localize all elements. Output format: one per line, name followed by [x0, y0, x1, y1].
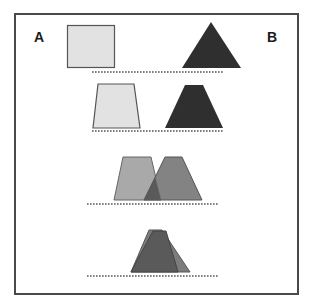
row-4 — [87, 230, 219, 276]
morph-diagram — [0, 0, 316, 306]
shape-b-trapezoid-overlap — [131, 231, 178, 272]
shape-b-triangle — [182, 22, 241, 68]
shape-a-trapezoid — [93, 84, 140, 128]
shape-b-trapezoid — [165, 85, 223, 128]
shape-a-square — [68, 26, 115, 68]
row-2 — [92, 84, 223, 131]
row-3 — [87, 157, 219, 204]
row-1 — [68, 22, 242, 72]
